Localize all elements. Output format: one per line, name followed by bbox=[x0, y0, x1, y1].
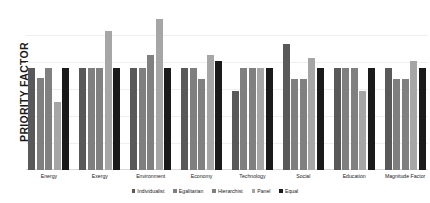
category-label: Energy bbox=[26, 173, 72, 179]
bar bbox=[207, 55, 214, 170]
bar bbox=[164, 68, 171, 170]
bar bbox=[215, 61, 222, 170]
legend-label: Hierarchist bbox=[218, 188, 243, 194]
bar-group bbox=[230, 8, 276, 170]
bar bbox=[359, 91, 366, 170]
legend-label: Individualist bbox=[137, 188, 164, 194]
legend-swatch-icon bbox=[132, 189, 136, 193]
chart-legend: IndividualistEgalitarianHierarchistPanel… bbox=[0, 188, 430, 194]
bar bbox=[283, 44, 290, 170]
bar bbox=[79, 68, 86, 170]
bar bbox=[147, 55, 154, 170]
legend-item[interactable]: Equal bbox=[279, 188, 298, 194]
category-label: Environment bbox=[128, 173, 174, 179]
bar bbox=[62, 68, 69, 170]
bar bbox=[368, 68, 375, 170]
legend-item[interactable]: Panel bbox=[252, 188, 271, 194]
legend-label: Egalitarian bbox=[179, 188, 204, 194]
legend-swatch-icon bbox=[279, 189, 283, 193]
bar bbox=[342, 68, 349, 170]
bar-group bbox=[331, 8, 377, 170]
plot-area bbox=[26, 8, 428, 170]
category-label: Education bbox=[331, 173, 377, 179]
bar-group bbox=[280, 8, 326, 170]
bar bbox=[240, 68, 247, 170]
bar bbox=[45, 68, 52, 170]
bar bbox=[300, 79, 307, 170]
bar bbox=[393, 79, 400, 170]
bar-group bbox=[382, 8, 428, 170]
bar bbox=[113, 68, 120, 170]
bar bbox=[249, 68, 256, 170]
category-labels: EnergyExergyEnvironmentEconomyTechnology… bbox=[26, 173, 428, 179]
bar bbox=[156, 19, 163, 170]
bar bbox=[28, 68, 35, 170]
bar bbox=[181, 68, 188, 170]
bar bbox=[105, 31, 112, 170]
bar bbox=[190, 68, 197, 170]
bar-group bbox=[179, 8, 225, 170]
bar bbox=[266, 68, 273, 170]
bar-groups bbox=[26, 8, 428, 170]
category-label: Magnitude Factor bbox=[382, 173, 428, 179]
legend-swatch-icon bbox=[173, 189, 177, 193]
priority-factor-chart: PRIORITY FACTOR EnergyExergyEnvironmentE… bbox=[0, 0, 430, 203]
legend-item[interactable]: Egalitarian bbox=[173, 188, 203, 194]
bar bbox=[402, 79, 409, 170]
bar bbox=[308, 58, 315, 170]
bar bbox=[351, 68, 358, 170]
category-label: Economy bbox=[179, 173, 225, 179]
legend-item[interactable]: Hierarchist bbox=[212, 188, 242, 194]
bar-group bbox=[77, 8, 123, 170]
category-label: Exergy bbox=[77, 173, 123, 179]
legend-swatch-icon bbox=[252, 189, 256, 193]
category-label: Technology bbox=[230, 173, 276, 179]
bar bbox=[139, 68, 146, 170]
legend-swatch-icon bbox=[212, 189, 216, 193]
bar bbox=[54, 102, 61, 170]
bar bbox=[317, 68, 324, 170]
bar bbox=[385, 68, 392, 170]
bar bbox=[232, 91, 239, 170]
legend-item[interactable]: Individualist bbox=[132, 188, 165, 194]
bar bbox=[198, 79, 205, 170]
bar bbox=[334, 68, 341, 170]
bar bbox=[130, 68, 137, 170]
bar bbox=[257, 68, 264, 170]
bar bbox=[88, 68, 95, 170]
bar bbox=[419, 68, 426, 170]
category-label: Social bbox=[280, 173, 326, 179]
bar bbox=[37, 78, 44, 170]
legend-label: Panel bbox=[257, 188, 270, 194]
bar-group bbox=[128, 8, 174, 170]
bar bbox=[410, 61, 417, 170]
bar bbox=[96, 68, 103, 170]
bar bbox=[291, 79, 298, 170]
legend-label: Equal bbox=[285, 188, 298, 194]
bar-group bbox=[26, 8, 72, 170]
